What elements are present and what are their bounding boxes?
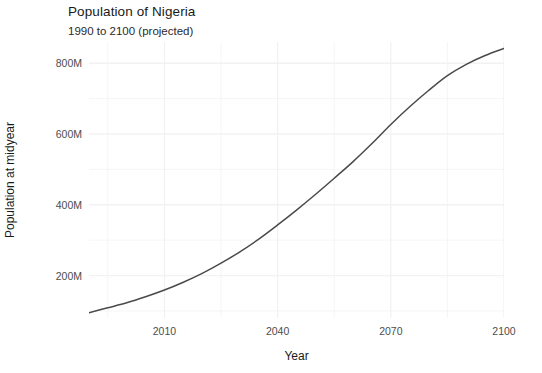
x-axis-title: Year (89, 349, 504, 363)
y-tick-label: 800M (56, 57, 82, 69)
x-tick-label: 2100 (492, 325, 515, 337)
x-tick-label: 2040 (266, 325, 289, 337)
series-line (89, 48, 504, 312)
y-tick-label: 400M (56, 199, 82, 211)
population-line-series (89, 42, 504, 318)
x-tick-label: 2070 (379, 325, 402, 337)
chart-title: Population of Nigeria (68, 4, 195, 19)
plot-area: 200M400M600M800M 2010204020702100 (89, 42, 504, 318)
y-axis-title-label: Population at midyear (3, 122, 17, 238)
chart-figure: Population of Nigeria 1990 to 2100 (proj… (0, 0, 542, 373)
x-tick-label: 2010 (153, 325, 176, 337)
y-axis-title: Population at midyear (0, 42, 20, 318)
y-tick-label: 600M (56, 128, 82, 140)
chart-subtitle: 1990 to 2100 (projected) (68, 25, 193, 37)
y-tick-label: 200M (56, 270, 82, 282)
